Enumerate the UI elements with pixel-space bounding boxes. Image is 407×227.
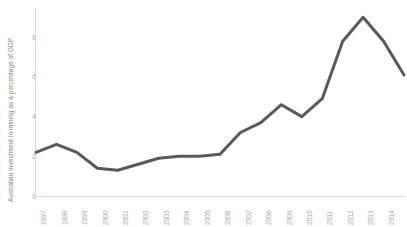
x-axis-tick-label: 2013 (367, 199, 375, 225)
line-chart: Australian investment in mining as a per… (0, 0, 407, 227)
x-axis-tick-labels: 1997199819992000200120022003200420052006… (36, 198, 404, 227)
x-axis-tick-label: 2005 (204, 199, 212, 225)
x-axis-tick-label: 2014 (388, 199, 396, 225)
x-axis-tick-label: 1999 (81, 199, 89, 225)
x-axis-tick-label: 1997 (40, 199, 48, 225)
x-axis-tick-label: 2012 (347, 199, 355, 225)
plot-svg (36, 8, 404, 198)
x-axis-tick-label: 2011 (326, 199, 334, 225)
y-axis-title: Australian investment in mining as a per… (5, 2, 17, 202)
y-axis-tick-label: 6 (22, 73, 36, 80)
x-axis-tick-label: 2007 (245, 199, 253, 225)
y-axis-tick-label: 4 (22, 113, 36, 120)
x-axis-tick-label: 2003 (163, 199, 171, 225)
y-axis-tick-label: 8 (22, 34, 36, 41)
x-axis-tick-label: 2002 (142, 199, 150, 225)
x-axis-tick-label: 2006 (224, 199, 232, 225)
data-series-line (36, 17, 404, 170)
x-axis-tick-label: 2008 (265, 199, 273, 225)
x-axis-tick-label: 2010 (306, 199, 314, 225)
x-axis-tick-label: 2000 (102, 199, 110, 225)
x-axis-tick-label: 2001 (122, 199, 130, 225)
y-axis-tick-labels: 02468 (22, 0, 36, 227)
plot-area (36, 8, 404, 198)
x-axis-tick-label: 1998 (61, 199, 69, 225)
x-axis-tick-label: 2004 (183, 199, 191, 225)
y-axis-tick-label: 2 (22, 153, 36, 160)
x-axis-tick-label: 2009 (286, 199, 294, 225)
